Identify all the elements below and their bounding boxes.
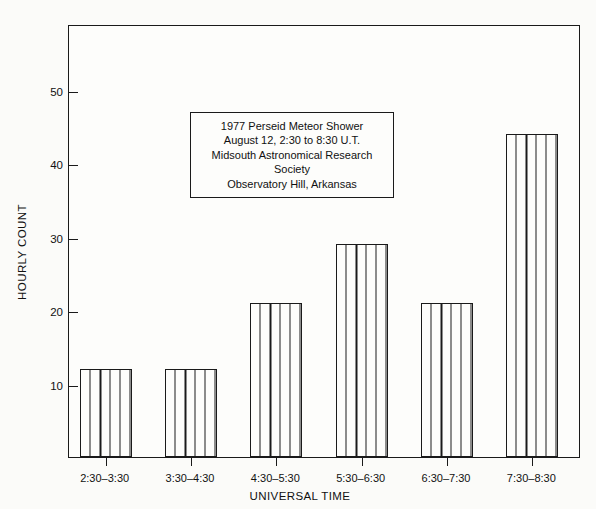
y-axis-tick: 20 (69, 312, 78, 313)
plot-frame: 1020304050 1977 Perseid Meteor ShowerAug… (68, 25, 580, 458)
x-axis-tick-label: 4:30–5:30 (251, 472, 300, 484)
bar (336, 244, 388, 457)
x-axis-tick (532, 457, 533, 466)
annotation-line: Society (274, 162, 310, 176)
x-axis-tick (276, 457, 277, 466)
annotation-line: Observatory Hill, Arkansas (227, 177, 357, 191)
y-axis-tick: 40 (69, 165, 78, 166)
bar (250, 303, 302, 457)
y-axis-tick: 10 (69, 386, 78, 387)
chart-page: HOURLY COUNT 1020304050 1977 Perseid Met… (0, 0, 596, 509)
y-axis-tick: 30 (69, 239, 78, 240)
bar (506, 134, 558, 457)
x-axis-title: UNIVERSAL TIME (250, 490, 351, 502)
bar (80, 369, 132, 457)
y-axis-tick-label: 50 (50, 87, 63, 99)
x-axis-tick-label: 3:30–4:30 (166, 472, 215, 484)
x-axis-tick-label: 6:30–7:30 (422, 472, 471, 484)
y-axis-tick: 50 (69, 92, 78, 93)
bar (165, 369, 217, 457)
x-axis-tick (362, 457, 363, 466)
y-axis-tick-label: 10 (50, 381, 63, 393)
x-axis-tick (447, 457, 448, 466)
annotation-box: 1977 Perseid Meteor ShowerAugust 12, 2:3… (190, 112, 394, 198)
x-axis-tick (191, 457, 192, 466)
y-axis-tick-label: 20 (50, 307, 63, 319)
annotation-line: Midsouth Astronomical Research (212, 148, 373, 162)
y-axis-tick-label: 30 (50, 234, 63, 246)
y-axis-title: HOURLY COUNT (16, 204, 28, 300)
x-axis-tick-label: 2:30–3:30 (80, 472, 129, 484)
x-axis-tick-label: 5:30–6:30 (336, 472, 385, 484)
x-axis-tick-label: 7:30–8:30 (507, 472, 556, 484)
y-axis-tick-label: 40 (50, 161, 63, 173)
x-axis-tick (106, 457, 107, 466)
annotation-line: 1977 Perseid Meteor Shower (221, 119, 363, 133)
annotation-line: August 12, 2:30 to 8:30 U.T. (224, 133, 360, 147)
bar (421, 303, 473, 457)
